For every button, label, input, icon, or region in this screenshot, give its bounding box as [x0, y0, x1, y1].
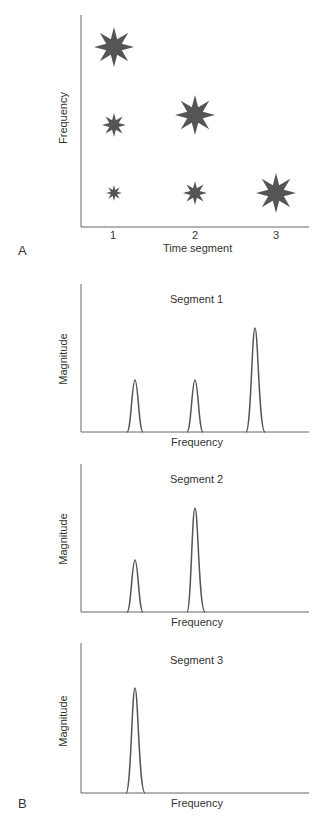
panel-b-letter: B — [18, 796, 27, 811]
segment-1-title: Segment 1 — [170, 293, 223, 305]
segment-2-plot — [81, 464, 309, 612]
tick-1: 1 — [110, 229, 116, 241]
tick-2: 2 — [192, 229, 198, 241]
segment-3-title: Segment 3 — [170, 654, 223, 666]
segment-1-plot — [81, 284, 309, 432]
panel-a-xlabel: Time segment — [163, 242, 232, 254]
panel-a-ylabel: Frequency — [57, 94, 69, 144]
segment-1-xlabel: Frequency — [171, 436, 223, 448]
segment-2-ylabel: Magnitude — [57, 511, 69, 567]
segment-2-title: Segment 2 — [170, 473, 223, 485]
segment-3-xlabel: Frequency — [171, 797, 223, 809]
segment-1-ylabel: Magnitude — [57, 331, 69, 387]
segment-2-xlabel: Frequency — [171, 616, 223, 628]
panel-a-letter: A — [18, 243, 27, 258]
segment-3-ylabel: Magnitude — [57, 693, 69, 749]
figure-canvas — [0, 0, 330, 816]
tick-3: 3 — [273, 229, 279, 241]
panel-a-stars — [94, 27, 296, 213]
